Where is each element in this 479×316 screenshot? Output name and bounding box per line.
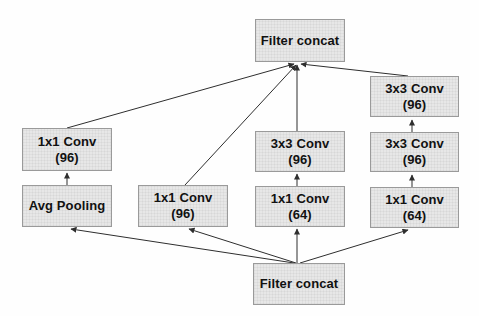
inception-module-diagram: Filter concat 3x3 Conv (96) 1x1 Conv (96… [0,0,479,316]
node-detail: (96) [171,206,195,222]
edge-bottomconcat-to-b4conv1 [300,230,408,263]
node-label: 3x3 Conv [385,81,444,97]
node-filter-concat-top: Filter concat [255,19,345,62]
node-label: Avg Pooling [29,198,105,214]
node-detail: (64) [403,208,427,224]
node-3x3-conv-96-branch4-mid: 3x3 Conv (96) [370,132,459,172]
node-label: Filter concat [260,276,339,292]
node-1x1-conv-64-branch4: 1x1 Conv (64) [370,187,459,228]
node-label: Filter concat [261,33,340,49]
node-detail: (96) [55,150,79,166]
node-avg-pooling: Avg Pooling [22,185,112,227]
node-detail: (96) [288,152,312,168]
edge-b4conv3-to-topconcat [301,64,408,76]
node-label: 3x3 Conv [271,136,330,152]
node-detail: (64) [288,207,312,223]
node-detail: (96) [403,152,427,168]
node-filter-concat-bottom: Filter concat [253,263,345,305]
edge-bottomconcat-to-b2conv [189,229,296,263]
node-1x1-conv-64-branch3: 1x1 Conv (64) [255,186,345,227]
node-1x1-conv-96-branch1: 1x1 Conv (96) [22,128,112,171]
node-3x3-conv-96-branch3: 3x3 Conv (96) [255,131,345,172]
node-label: 1x1 Conv [154,190,213,206]
node-1x1-conv-96-branch2: 1x1 Conv (96) [138,185,228,227]
node-detail: (96) [403,97,427,113]
node-label: 1x1 Conv [38,134,97,150]
edge-bottomconcat-to-pool [71,229,294,263]
node-label: 1x1 Conv [271,191,330,207]
node-3x3-conv-96-branch4-top: 3x3 Conv (96) [370,76,459,117]
edge-b1conv-to-topconcat [67,64,294,128]
node-label: 1x1 Conv [385,192,444,208]
node-label: 3x3 Conv [385,136,444,152]
